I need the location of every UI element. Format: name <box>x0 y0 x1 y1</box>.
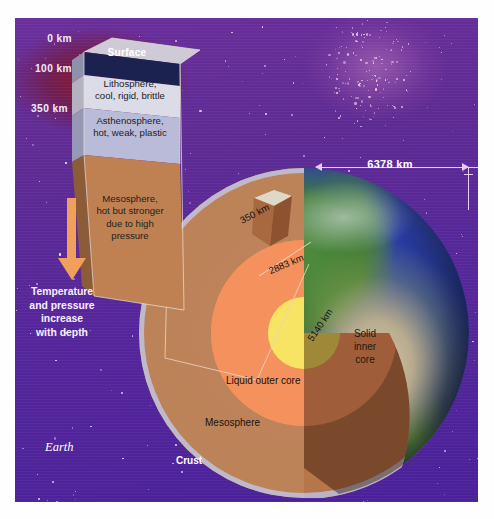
prism-label-mesosphere-line3: due to high <box>106 218 153 229</box>
earth-interior-diagram: Surface Lithosphere, cool, rigid, brittl… <box>0 0 494 519</box>
label-mesosphere: Mesosphere <box>205 417 260 428</box>
prism-label-mesosphere-line4: pressure <box>111 230 148 241</box>
label-crust: Crust <box>176 455 202 466</box>
depth-tick-350: 350 km <box>2 103 68 114</box>
label-inner-core-line1: Solid <box>354 328 376 339</box>
prism-label-lithosphere-line1: Lithosphere, <box>104 78 157 89</box>
prism-label-asthenosphere-line2: hot, weak, plastic <box>93 127 167 138</box>
exploded-column <box>72 34 204 314</box>
prism-label-lithosphere-line2: cool, rigid, brittle <box>95 90 165 101</box>
prism-label-mesosphere-line2: hot but stronger <box>96 205 163 216</box>
gradient-note-line3: increase <box>41 313 83 324</box>
gradient-note-line1: Temperature <box>31 286 93 297</box>
label-inner-core: Solid inner core <box>336 327 394 366</box>
label-earth: Earth <box>45 440 73 455</box>
gradient-note-line2: and pressure <box>29 300 94 311</box>
gradient-note: Temperature and pressure increase with d… <box>6 285 118 339</box>
depth-tick-0: 0 km <box>6 33 72 44</box>
prism-label-surface: Surface <box>78 47 176 59</box>
radius-dimension: 6378 km <box>316 148 478 210</box>
arrow-left-icon <box>315 163 322 171</box>
prism-label-asthenosphere: Asthenosphere, hot, weak, plastic <box>74 115 186 140</box>
label-inner-core-line3: core <box>355 354 374 365</box>
label-outer-core: Liquid outer core <box>226 375 301 386</box>
prism-label-mesosphere-line1: Mesosphere, <box>102 193 157 204</box>
label-inner-core-line2: inner <box>354 341 376 352</box>
sampled-column-block <box>248 184 304 256</box>
depth-tick-100: 100 km <box>6 63 72 74</box>
dimension-label: 6378 km <box>338 158 442 170</box>
prism-label-asthenosphere-line1: Asthenosphere, <box>96 115 163 126</box>
prism-label-mesosphere: Mesosphere, hot but stronger due to high… <box>78 193 182 243</box>
prism-label-lithosphere: Lithosphere, cool, rigid, brittle <box>74 78 186 103</box>
prism-svg <box>72 34 204 314</box>
gradient-note-line4: with depth <box>36 327 88 338</box>
down-arrow-icon <box>55 198 89 282</box>
dimension-tick <box>464 174 473 175</box>
